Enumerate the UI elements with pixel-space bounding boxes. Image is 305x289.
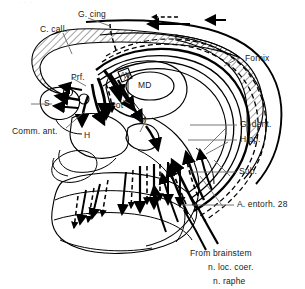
label-h: H xyxy=(84,131,90,140)
label-c-call: C. call. xyxy=(40,25,67,34)
label-hipp: Hipp. xyxy=(240,135,261,144)
label-md: MD xyxy=(138,81,152,90)
label-s: S xyxy=(44,99,50,108)
label-n-raphe: n. raphe xyxy=(213,277,245,286)
label-comm-ant: Comm. ant. xyxy=(12,127,57,136)
label-from-brainstem: From brainstem xyxy=(190,249,252,258)
limbic-system-diagram xyxy=(0,0,305,289)
label-prf: Prf. xyxy=(71,73,85,82)
label-n-loc-coer: n. loc. coer. xyxy=(208,263,253,272)
label-fornix: Fornix xyxy=(245,54,270,63)
label-m: M xyxy=(139,116,146,125)
label-pot: Pot xyxy=(110,101,123,110)
label-a-entorh: A. entorh. 28 xyxy=(237,200,288,209)
label-g-dent: G. dent. xyxy=(240,120,271,129)
label-sub: Sub. xyxy=(239,167,257,176)
label-g-cing: G. cing xyxy=(78,10,106,19)
label-av: AV xyxy=(120,71,131,80)
page-artifact-text: · · · xyxy=(18,0,32,5)
